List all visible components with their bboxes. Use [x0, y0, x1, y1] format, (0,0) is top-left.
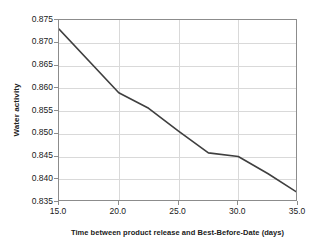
x-axis-tick-mark: [58, 201, 59, 205]
x-axis-tick-label: 15.0: [38, 206, 78, 217]
y-axis-tick-mark: [54, 87, 58, 88]
y-axis-tick-mark: [54, 19, 58, 20]
y-axis-tick-mark: [54, 178, 58, 179]
y-axis-tick-label: 0.845: [22, 151, 53, 160]
x-axis-tick-mark: [118, 201, 119, 205]
y-axis-tick-mark: [54, 201, 58, 202]
y-axis-tick-label: 0.835: [22, 197, 53, 206]
x-axis-tick-labels: 15.020.025.030.035.0: [0, 206, 317, 218]
y-axis-tick-mark: [54, 110, 58, 111]
y-axis-tick-label: 0.860: [22, 83, 53, 92]
y-axis-tick-label: 0.840: [22, 174, 53, 183]
x-axis-tick-mark: [297, 201, 298, 205]
x-axis-tick-label: 35.0: [277, 206, 317, 217]
x-axis-title: Time between product release and Best-Be…: [58, 228, 297, 237]
plot-area: [58, 19, 297, 201]
y-axis-tick-labels: 0.8350.8400.8450.8500.8550.8600.8650.870…: [22, 19, 53, 201]
x-axis-tick-mark: [178, 201, 179, 205]
y-axis-tick-label: 0.865: [22, 60, 53, 69]
y-axis-tick-label: 0.870: [22, 37, 53, 46]
x-axis-tick-label: 20.0: [98, 206, 138, 217]
y-axis-tick-mark: [54, 42, 58, 43]
x-axis-tick-label: 30.0: [217, 206, 257, 217]
y-axis-tick-label: 0.850: [22, 128, 53, 137]
y-axis-tick-label: 0.875: [22, 15, 53, 24]
y-axis-tick-mark: [54, 156, 58, 157]
y-axis-tick-mark: [54, 65, 58, 66]
water-activity-line-chart: Water activity 0.8350.8400.8450.8500.855…: [0, 0, 317, 251]
y-axis-tick-label: 0.855: [22, 106, 53, 115]
data-series-line: [59, 20, 297, 201]
x-axis-tick-mark: [237, 201, 238, 205]
x-axis-tick-label: 25.0: [158, 206, 198, 217]
y-axis-tick-mark: [54, 133, 58, 134]
